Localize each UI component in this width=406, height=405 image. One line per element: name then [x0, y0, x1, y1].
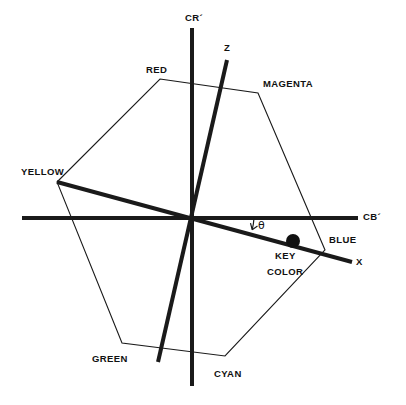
z-axis-label: Z	[224, 43, 230, 53]
vertex-label-red: RED	[146, 65, 167, 75]
vertex-label-green: GREEN	[92, 354, 128, 364]
x-axis-label: X	[356, 257, 363, 267]
key-color-dot	[286, 234, 300, 248]
cr-axis-label: CR´	[185, 13, 203, 23]
vertex-label-blue: BLUE	[329, 235, 356, 245]
theta-label: θ	[258, 220, 265, 231]
vertex-label-yellow: YELLOW	[21, 167, 64, 177]
x-axis-line	[57, 182, 352, 262]
theta-arrowhead	[251, 223, 258, 230]
color-label: COLOR	[267, 267, 303, 277]
chrominance-svg	[0, 0, 406, 405]
key-label: KEY	[275, 251, 296, 261]
cb-axis-label: CB´	[363, 212, 381, 222]
chrominance-diagram: CR´ CB´ Z X RED MAGENTA BLUE CYAN GREEN …	[0, 0, 406, 405]
vertex-label-cyan: CYAN	[214, 369, 242, 379]
vertex-label-magenta: MAGENTA	[263, 79, 313, 89]
